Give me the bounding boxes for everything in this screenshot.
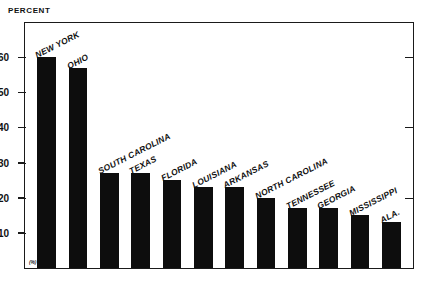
y-tick-50: 50 — [18, 92, 26, 93]
y-tick-label-30: 30 — [0, 158, 9, 169]
y-tick-label-10: 10 — [0, 228, 9, 239]
bar — [382, 222, 401, 268]
right-tick-60 — [405, 57, 413, 58]
bar — [257, 198, 276, 268]
right-tick-40 — [405, 127, 413, 128]
y-tick-inner-60 — [18, 57, 25, 58]
bar — [69, 68, 88, 268]
bar — [194, 187, 213, 268]
y-tick-40: 40 — [18, 127, 26, 128]
y-tick-inner-20 — [18, 197, 25, 198]
bar — [225, 187, 244, 268]
right-tick-20 — [405, 198, 413, 199]
bar — [288, 208, 307, 268]
y-tick-inner-10 — [18, 232, 25, 233]
origin-mark: (%) — [29, 259, 36, 265]
y-tick-label-50: 50 — [0, 87, 9, 98]
y-tick-inner-30 — [18, 162, 25, 163]
y-tick-20: 20 — [18, 198, 26, 199]
bar — [351, 215, 370, 268]
y-tick-inner-40 — [18, 127, 25, 128]
y-tick-inner-50 — [18, 92, 25, 93]
y-tick-label-20: 20 — [0, 193, 9, 204]
y-tick-30: 30 — [18, 163, 26, 164]
y-tick-10: 10 — [18, 233, 26, 234]
bar — [319, 208, 338, 268]
bar-label: NEW YORK — [34, 29, 81, 60]
plot-area: 102030405060 NEW YORKOHIOSOUTH CAROLINAT… — [24, 22, 414, 269]
bar — [37, 57, 56, 268]
y-axis-caption: PERCENT — [8, 6, 50, 15]
y-tick-label-40: 40 — [0, 123, 9, 134]
y-tick-label-60: 60 — [0, 52, 9, 63]
bar — [131, 173, 150, 268]
bar-chart: PERCENT 102030405060 NEW YORKOHIOSOUTH C… — [0, 0, 427, 292]
y-tick-60: 60 — [18, 57, 26, 58]
bar — [100, 173, 119, 268]
bar — [163, 180, 182, 268]
